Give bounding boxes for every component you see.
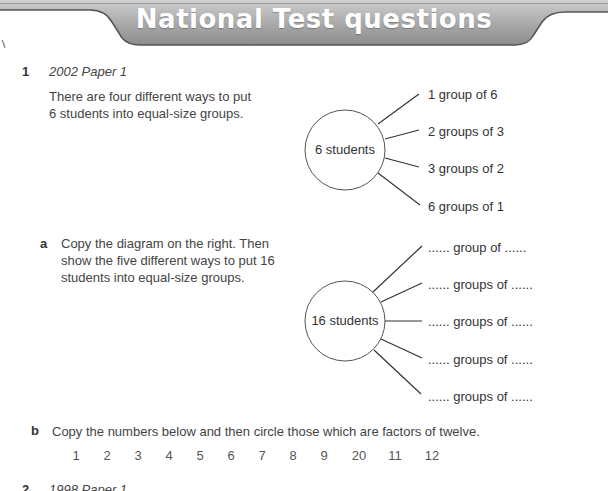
circle-label-16-students: 16 students [305, 313, 385, 328]
worksheet-page: National Test questions 1 2002 Paper 1 T… [0, 0, 608, 491]
number-item: 12 [420, 448, 444, 463]
part-b-text: Copy the numbers below and then circle t… [52, 423, 592, 440]
number-item: 8 [281, 448, 305, 463]
number-item: 2 [95, 448, 119, 463]
question-2-partial: 2 1998 Paper 1 [0, 482, 608, 491]
number-item: 4 [157, 448, 181, 463]
part-a-letter: a [40, 236, 47, 251]
blank-branch-label: ...... groups of ...... [428, 352, 533, 367]
circle-label-6-students: 6 students [305, 142, 385, 157]
branch-label: 2 groups of 3 [428, 124, 504, 139]
number-item: 6 [219, 448, 243, 463]
numbers-list: 1 2 3 4 5 6 7 8 9 20 11 12 [0, 448, 608, 466]
number-item: 11 [383, 448, 407, 463]
blank-branch-label: ...... groups of ...... [428, 277, 533, 292]
blank-branch-label: ...... groups of ...... [428, 314, 533, 329]
number-item: 5 [188, 448, 212, 463]
branch-label: 3 groups of 2 [428, 161, 504, 176]
branch-label: 6 groups of 1 [428, 199, 504, 214]
number-item: 20 [347, 448, 371, 463]
number-item: 3 [126, 448, 150, 463]
part-a-text: Copy the diagram on the right. Then show… [61, 235, 301, 286]
question-number: 2 [22, 482, 29, 491]
part-b-letter: b [31, 423, 39, 438]
question-source: 1998 Paper 1 [49, 482, 127, 491]
number-item: 7 [250, 448, 274, 463]
blank-branch-label: ...... groups of ...... [428, 389, 533, 404]
number-item: 9 [312, 448, 336, 463]
blank-branch-label: ...... group of ...... [428, 240, 526, 255]
branch-label: 1 group of 6 [428, 87, 497, 102]
number-item: 1 [64, 448, 88, 463]
